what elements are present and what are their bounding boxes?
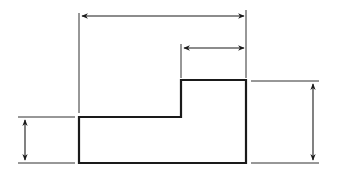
dimension-diagram: [0, 0, 337, 174]
stepped-profile: [79, 80, 246, 163]
